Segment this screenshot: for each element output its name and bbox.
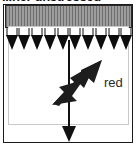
load-arrow-head-icon [108, 35, 120, 50]
load-arrow-head-icon [82, 35, 94, 50]
distributed-load-arrow [6, 28, 17, 51]
distributed-load-arrow [57, 28, 68, 51]
load-arrow-head-icon [31, 35, 43, 50]
distributed-load-arrow [83, 28, 94, 51]
distributed-load-arrow [70, 28, 81, 51]
distributed-load-arrow [32, 28, 43, 51]
load-arrow-head-icon [6, 35, 18, 50]
distributed-load-arrow [108, 28, 119, 51]
load-arrow-head-icon [69, 35, 81, 50]
distributed-load-arrow [121, 28, 132, 51]
load-arrow-head-icon [44, 35, 56, 50]
load-arrow-head-icon [57, 35, 69, 50]
distributed-load-arrow [44, 28, 55, 51]
load-arrow-head-icon [120, 35, 132, 50]
load-arrow-head-icon [18, 35, 30, 50]
distributed-load-arrow [19, 28, 30, 51]
load-arrow-head-icon [95, 35, 107, 50]
red-annotation-label: red [104, 76, 123, 90]
figure-diagram: ...ner unstressed [0, 0, 138, 147]
center-axis-arrow-head-icon [62, 126, 76, 142]
distributed-load-arrow [95, 28, 106, 51]
callout-arrow-icon [50, 58, 106, 108]
hatched-support-band [5, 5, 132, 28]
